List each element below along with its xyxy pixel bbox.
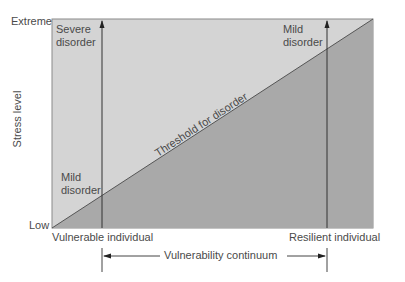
y-axis-title: Stress level (11, 88, 23, 150)
region-mild-disorder-resilient: Mild disorder (283, 23, 323, 49)
x-right-label: Resilient individual (289, 231, 380, 244)
region-severe-disorder: Severe disorder (56, 23, 96, 49)
continuum-left-arrowhead-icon (103, 254, 111, 259)
region-mild-disorder-vulnerable: Mild disorder (61, 171, 101, 197)
continuum-right-arrowhead-icon (318, 254, 326, 259)
y-top-label: Extreme (11, 15, 52, 28)
x-left-label: Vulnerable individual (52, 231, 153, 244)
y-bottom-label: Low (29, 219, 49, 232)
diathesis-stress-diagram: Threshold for disorder Extreme Low Stres… (0, 0, 405, 282)
continuum-label: Vulnerability continuum (164, 249, 277, 262)
